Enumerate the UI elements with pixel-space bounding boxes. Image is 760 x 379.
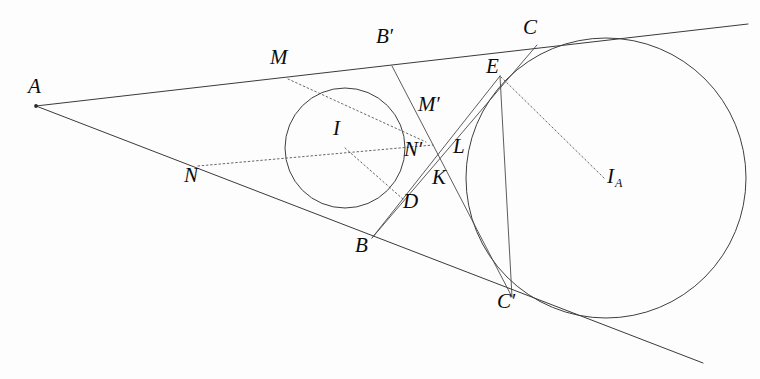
prime-mark-c: ′: [511, 290, 516, 312]
point-label-C-prime: C′: [497, 291, 516, 312]
point-label-N-prime-letter: N: [404, 137, 418, 161]
point-label-B: B: [355, 235, 368, 256]
dotted-m-to-mprime: [288, 79, 426, 142]
dotted-n-to-nprime: [198, 145, 433, 166]
point-label-I-A: IA: [607, 166, 621, 187]
point-label-N-prime: N′: [404, 139, 423, 160]
segment-bprime-cprime: [392, 66, 512, 297]
point-label-I-A-subscript: A: [615, 176, 622, 190]
geometry-figure: A M B′ C E M′ I L N′ N K IA D B C′: [0, 0, 760, 379]
vertex-dot-a: [34, 104, 38, 108]
point-label-B-prime: B′: [376, 26, 394, 47]
point-label-D: D: [403, 191, 418, 212]
point-label-K: K: [432, 167, 446, 188]
geometry-canvas: [0, 0, 760, 379]
point-label-M-prime-letter: M: [418, 92, 436, 116]
point-label-M: M: [270, 47, 288, 68]
dotted-ia-to-e: [500, 76, 604, 178]
excircle: [466, 38, 746, 318]
point-label-L: L: [453, 136, 465, 157]
prime-mark-n: ′: [418, 138, 423, 160]
dotted-i-to-d: [345, 148, 404, 200]
segment-e-cprime: [500, 76, 512, 297]
point-label-A: A: [28, 76, 41, 97]
point-label-B-prime-letter: B: [376, 24, 389, 48]
point-label-I-A-letter: I: [607, 164, 614, 188]
point-label-C: C: [523, 17, 537, 38]
point-label-C-prime-letter: C: [497, 289, 511, 313]
point-label-M-prime: M′: [418, 94, 441, 115]
prime-mark-b: ′: [389, 25, 394, 47]
prime-mark-m: ′: [436, 93, 441, 115]
point-label-I: I: [333, 118, 340, 139]
point-label-E: E: [486, 56, 499, 77]
point-label-N: N: [184, 165, 198, 186]
lower-tangent-line: [36, 106, 703, 363]
